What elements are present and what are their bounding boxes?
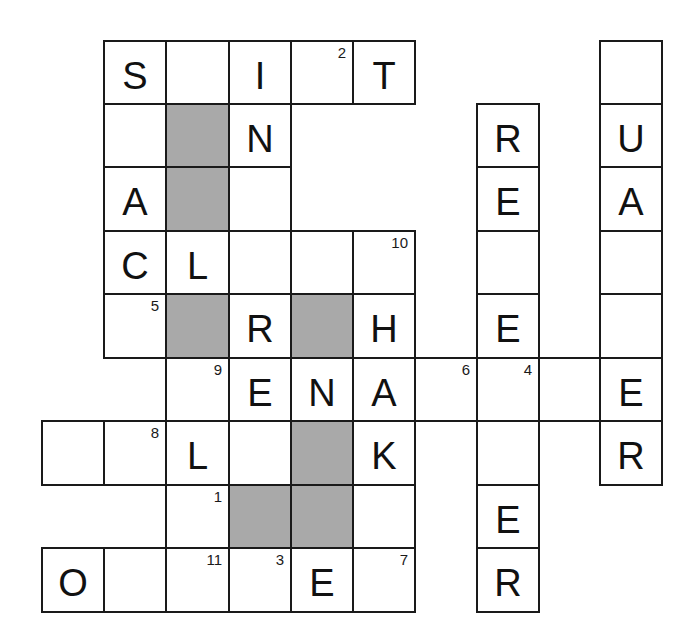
crossword-cell-r0-c3[interactable]: I xyxy=(228,40,292,105)
crossword-cell-r2-c9[interactable]: A xyxy=(599,166,663,232)
crossword-cell-r1-c9[interactable]: U xyxy=(599,103,663,168)
cell-letter: E xyxy=(309,564,334,602)
crossword-cell-r3-c7[interactable] xyxy=(476,230,540,295)
blocked-cell xyxy=(228,484,292,549)
cell-letter: E xyxy=(495,501,520,539)
crossword-cell-r8-c7[interactable]: R xyxy=(476,547,540,613)
clue-number: 1 xyxy=(214,489,222,504)
crossword-cell-r0-c2[interactable] xyxy=(165,40,230,105)
blocked-cell xyxy=(290,484,354,549)
crossword-cell-r8-c1[interactable] xyxy=(103,547,167,613)
cell-letter: A xyxy=(371,374,396,412)
crossword-grid: SI2TNRUAEACL105RHE9ENA64E8LKR1EO113E7R xyxy=(0,0,692,643)
cell-letter: R xyxy=(246,310,273,348)
crossword-cell-r1-c7[interactable]: R xyxy=(476,103,540,168)
crossword-cell-r1-c3[interactable]: N xyxy=(228,103,292,168)
crossword-cell-r7-c2[interactable]: 1 xyxy=(165,484,230,549)
crossword-cell-r6-c3[interactable] xyxy=(228,420,292,486)
cell-letter: K xyxy=(371,437,396,475)
cell-letter: R xyxy=(494,564,521,602)
crossword-cell-r5-c8[interactable] xyxy=(538,357,601,422)
crossword-cell-r3-c5[interactable]: 10 xyxy=(352,230,416,295)
crossword-cell-r3-c3[interactable] xyxy=(228,230,292,295)
cell-letter: E xyxy=(618,374,643,412)
cell-letter: N xyxy=(246,120,273,158)
cell-letter: U xyxy=(617,120,644,158)
cell-letter: N xyxy=(308,374,335,412)
cell-letter: C xyxy=(121,247,148,285)
crossword-cell-r5-c6[interactable]: 6 xyxy=(414,357,478,422)
crossword-cell-r6-c9[interactable]: R xyxy=(599,420,663,486)
crossword-cell-r7-c7[interactable]: E xyxy=(476,484,540,549)
clue-number: 9 xyxy=(214,362,222,377)
crossword-cell-r1-c1[interactable] xyxy=(103,103,167,168)
crossword-cell-r8-c2[interactable]: 11 xyxy=(165,547,230,613)
crossword-cell-r4-c9[interactable] xyxy=(599,293,663,359)
clue-number: 10 xyxy=(391,235,408,250)
crossword-cell-r5-c9[interactable]: E xyxy=(599,357,663,422)
crossword-cell-r5-c7[interactable]: 4 xyxy=(476,357,540,422)
crossword-cell-r0-c4[interactable]: 2 xyxy=(290,40,354,105)
cell-letter: I xyxy=(255,57,266,95)
crossword-cell-r6-c5[interactable]: K xyxy=(352,420,416,486)
cell-letter: L xyxy=(187,437,208,475)
blocked-cell xyxy=(165,293,230,359)
cell-letter: S xyxy=(122,57,147,95)
cell-letter: R xyxy=(494,120,521,158)
clue-number: 7 xyxy=(400,552,408,567)
clue-number: 11 xyxy=(206,552,222,567)
blocked-cell xyxy=(290,293,354,359)
crossword-cell-r2-c3[interactable] xyxy=(228,166,292,232)
cell-letter: E xyxy=(247,374,272,412)
clue-number: 5 xyxy=(151,298,159,313)
crossword-cell-r2-c1[interactable]: A xyxy=(103,166,167,232)
crossword-cell-r8-c5[interactable]: 7 xyxy=(352,547,416,613)
crossword-cell-r0-c1[interactable]: S xyxy=(103,40,167,105)
cell-letter: A xyxy=(618,183,643,221)
cell-letter: T xyxy=(372,57,395,95)
blocked-cell xyxy=(165,103,230,168)
blocked-cell xyxy=(290,420,354,486)
crossword-cell-r6-c7[interactable] xyxy=(476,420,540,486)
crossword-cell-r0-c5[interactable]: T xyxy=(352,40,416,105)
crossword-cell-r5-c2[interactable]: 9 xyxy=(165,357,230,422)
crossword-cell-r4-c7[interactable]: E xyxy=(476,293,540,359)
crossword-cell-r2-c7[interactable]: E xyxy=(476,166,540,232)
crossword-cell-r8-c0[interactable]: O xyxy=(41,547,105,613)
crossword-cell-r8-c3[interactable]: 3 xyxy=(228,547,292,613)
cell-letter: O xyxy=(58,564,88,602)
crossword-cell-r4-c3[interactable]: R xyxy=(228,293,292,359)
clue-number: 6 xyxy=(462,362,470,377)
crossword-cell-r6-c1[interactable]: 8 xyxy=(103,420,167,486)
cell-letter: H xyxy=(370,310,397,348)
crossword-cell-r3-c9[interactable] xyxy=(599,230,663,295)
crossword-cell-r3-c4[interactable] xyxy=(290,230,354,295)
cell-letter: E xyxy=(495,310,520,348)
crossword-cell-r0-c9[interactable] xyxy=(599,40,663,105)
crossword-cell-r8-c4[interactable]: E xyxy=(290,547,354,613)
blocked-cell xyxy=(165,166,230,232)
clue-number: 2 xyxy=(338,45,346,60)
crossword-cell-r3-c1[interactable]: C xyxy=(103,230,167,295)
cell-letter: E xyxy=(495,183,520,221)
clue-number: 3 xyxy=(276,552,284,567)
cell-letter: R xyxy=(617,437,644,475)
crossword-cell-r5-c5[interactable]: A xyxy=(352,357,416,422)
clue-number: 4 xyxy=(524,362,532,377)
clue-number: 8 xyxy=(151,425,159,440)
crossword-cell-r5-c4[interactable]: N xyxy=(290,357,354,422)
crossword-cell-r6-c2[interactable]: L xyxy=(165,420,230,486)
crossword-cell-r4-c1[interactable]: 5 xyxy=(103,293,167,359)
crossword-cell-r4-c5[interactable]: H xyxy=(352,293,416,359)
crossword-cell-r5-c3[interactable]: E xyxy=(228,357,292,422)
crossword-cell-r7-c5[interactable] xyxy=(352,484,416,549)
crossword-cell-r6-c0[interactable] xyxy=(41,420,105,486)
cell-letter: A xyxy=(122,183,147,221)
crossword-cell-r3-c2[interactable]: L xyxy=(165,230,230,295)
cell-letter: L xyxy=(187,247,208,285)
